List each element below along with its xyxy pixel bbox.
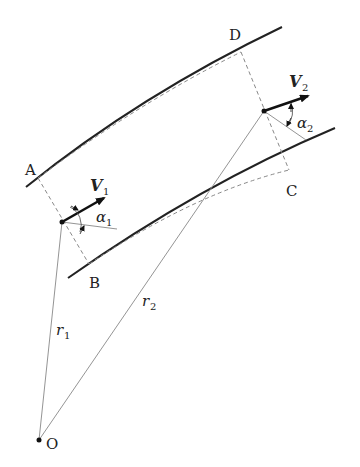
label-r2: r — [142, 292, 150, 310]
point-center-O — [37, 438, 42, 443]
label-r1: r — [56, 321, 64, 339]
control-surface-AD — [38, 52, 241, 178]
control-surface-BC — [89, 170, 289, 264]
label-B: B — [89, 274, 100, 292]
point-station-1 — [60, 220, 65, 225]
point-station-2 — [262, 109, 267, 114]
angle-arc-alpha2 — [287, 103, 293, 126]
label-alpha2: α — [297, 114, 307, 132]
label-v2-sub: 2 — [302, 82, 308, 93]
label-O: O — [46, 435, 58, 453]
label-r1-sub: 1 — [64, 330, 70, 341]
label-v1: V — [90, 176, 104, 195]
label-r2-sub: 2 — [150, 301, 156, 312]
label-alpha2-sub: 2 — [307, 123, 313, 134]
outer-wall-curve — [26, 27, 282, 187]
label-D: D — [229, 26, 241, 44]
label-alpha1: α — [96, 208, 106, 226]
angle-arrow-alpha2-bottom — [287, 118, 291, 126]
label-v1-sub: 1 — [103, 186, 109, 197]
label-alpha1-sub: 1 — [106, 217, 112, 228]
velocity-vector-v2 — [264, 96, 308, 111]
label-v2: V — [289, 72, 303, 91]
label-C: C — [286, 182, 297, 200]
channel-diagram: A D B C O V 1 V 2 α 1 α 2 r 1 r 2 — [0, 0, 360, 467]
label-A: A — [24, 161, 36, 179]
